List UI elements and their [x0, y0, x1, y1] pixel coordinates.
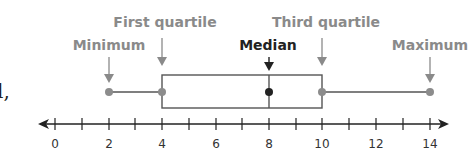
cropped-text-fragment: l,	[0, 79, 10, 103]
maximum-label: Maximum	[392, 37, 468, 53]
minimum-arrow-icon	[104, 57, 114, 83]
median-point	[265, 88, 273, 96]
number-line: 0 2 4 6 8 10 12 14	[38, 118, 449, 151]
first-quartile-point	[158, 88, 166, 96]
median-arrow-icon	[264, 57, 274, 71]
first-quartile-arrow-icon	[157, 38, 167, 66]
tick-label-6: 6	[212, 137, 220, 151]
tick-label-2: 2	[105, 137, 113, 151]
tick-label-12: 12	[368, 137, 383, 151]
first-quartile-label: First quartile	[113, 14, 216, 30]
third-quartile-point	[318, 88, 326, 96]
third-quartile-arrow-icon	[317, 38, 327, 66]
tick-label-0: 0	[51, 137, 59, 151]
interquartile-box	[162, 75, 322, 108]
minimum-point	[105, 88, 113, 96]
third-quartile-label: Third quartile	[272, 14, 380, 30]
maximum-point	[426, 88, 434, 96]
tick-label-14: 14	[422, 137, 437, 151]
median-label: Median	[239, 37, 297, 53]
minimum-label: Minimum	[73, 37, 146, 53]
tick-label-8: 8	[265, 137, 273, 151]
tick-label-10: 10	[314, 137, 329, 151]
maximum-arrow-icon	[425, 57, 435, 83]
box-plot-diagram: l, First quartile Minimum Median Third q…	[0, 0, 473, 163]
tick-label-4: 4	[158, 137, 166, 151]
